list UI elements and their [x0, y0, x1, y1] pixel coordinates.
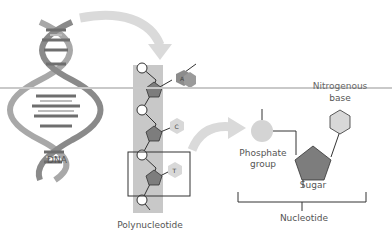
nitrogenous-base-label-line1: Nitrogenous — [305, 81, 375, 92]
phosphate-group-circle — [251, 120, 273, 142]
svg-text:C: C — [175, 123, 179, 130]
phosphate-group-label-line2: group — [243, 159, 283, 170]
sugar-pentagon — [295, 146, 331, 180]
nitrogenous-base-hexagon — [330, 110, 350, 134]
base-a-hexagon: A — [176, 70, 196, 88]
arrow-dna-to-polynucleotide — [80, 15, 172, 60]
nucleotide-label: Nucleotide — [276, 213, 332, 224]
nitrogenous-base-label-line2: base — [320, 93, 360, 104]
sugar-label: Sugar — [295, 180, 331, 191]
nucleotide-bracket — [238, 192, 366, 202]
dna-label: DNA — [42, 155, 72, 166]
base-t-hexagon: T — [168, 162, 182, 178]
polynucleotide-label: Polynucleotide — [112, 220, 188, 231]
svg-text:T: T — [172, 167, 177, 174]
base-c-hexagon: C — [170, 118, 184, 134]
arrow-to-nucleotide — [192, 117, 246, 150]
nucleotide-diagram: A C T DNA — [0, 0, 392, 242]
phosphate-group-label-line1: Phosphate — [238, 148, 288, 159]
